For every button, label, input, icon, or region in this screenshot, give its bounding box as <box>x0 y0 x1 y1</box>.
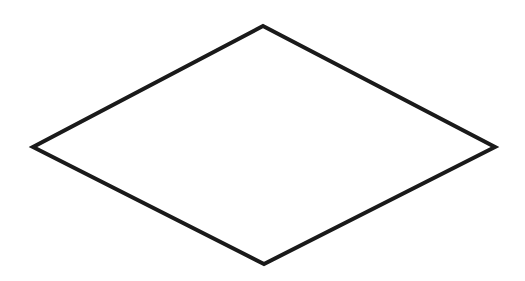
diagram-canvas <box>0 0 525 281</box>
decision-diamond-shape <box>33 26 495 264</box>
diagram-svg <box>0 0 525 281</box>
